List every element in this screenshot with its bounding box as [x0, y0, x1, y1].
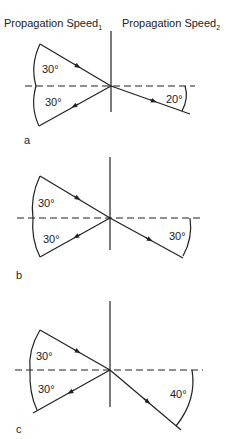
incidence-arc [34, 44, 40, 86]
panel-c [15, 301, 203, 430]
incidence-angle-label: 30° [36, 350, 53, 362]
panel-label: c [16, 423, 22, 435]
refraction-arc [182, 86, 186, 111]
reflection-angle-label: 30° [45, 96, 62, 108]
incidence-angle-label: 30° [42, 63, 59, 75]
reflection-arc [30, 370, 37, 410]
reflection-arc [33, 218, 40, 257]
refraction-angle-label: 30° [169, 230, 186, 242]
reflection-angle-label: 30° [38, 383, 55, 395]
refraction-angle-label: 40° [170, 388, 187, 400]
reflection-arc [34, 86, 39, 126]
reflection-angle-label: 30° [43, 233, 60, 245]
panel-a [25, 31, 195, 126]
refraction-angle-label: 20° [166, 93, 183, 105]
incidence-angle-label: 30° [38, 197, 55, 209]
panel-label: b [16, 269, 22, 281]
panel-label: a [24, 134, 31, 146]
refraction-diagrams: 30° 30° 20° a 30° 30° 30° b 30° 30° 40° … [0, 0, 235, 439]
